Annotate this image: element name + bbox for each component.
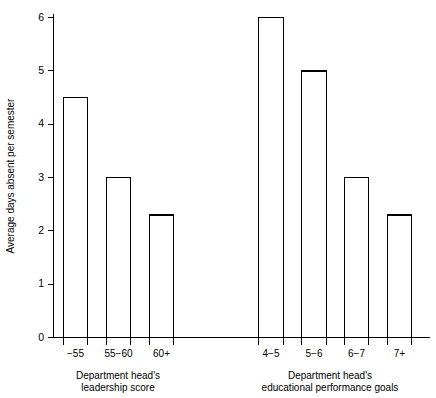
- bar-g2-7plus[interactable]: [388, 215, 412, 338]
- y-tick-label-1: 1: [38, 277, 44, 289]
- x-axis-tick-labels: −55 55−60 60+ 4−5 5−6 6−7 7+: [67, 348, 405, 359]
- x-tick-label-6-7: 6−7: [348, 348, 365, 359]
- group2-caption-line1: Department head's: [288, 370, 372, 381]
- x-tick-label-60plus: 60+: [153, 348, 170, 359]
- bar-g2-4-5[interactable]: [259, 18, 284, 338]
- y-tick-label-3: 3: [38, 171, 44, 183]
- y-axis-title: Average days absent per semester: [5, 98, 16, 254]
- y-axis-ticks: [48, 18, 54, 338]
- x-tick-label-4-5: 4−5: [263, 348, 280, 359]
- y-tick-label-2: 2: [38, 224, 44, 236]
- bar-g1-55-60[interactable]: [107, 178, 131, 338]
- x-tick-label-5-6: 5−6: [306, 348, 323, 359]
- group1-caption-line1: Department head's: [76, 370, 160, 381]
- y-tick-label-5: 5: [38, 64, 44, 76]
- chart-canvas: 6 5 4 3 2 1 0 Average days absent per se…: [0, 0, 436, 398]
- x-tick-label-55-60: 55−60: [104, 348, 133, 359]
- x-axis-ticks: [64, 338, 412, 346]
- bar-g2-5-6[interactable]: [302, 71, 327, 338]
- bar-chart: 6 5 4 3 2 1 0 Average days absent per se…: [0, 0, 436, 398]
- group-caption-performance-goals: Department head's educational performanc…: [262, 370, 399, 393]
- bar-g1-minus55[interactable]: [64, 98, 88, 338]
- x-tick-label-7plus: 7+: [394, 348, 406, 359]
- bar-g1-60plus[interactable]: [150, 215, 174, 338]
- y-tick-label-6: 6: [38, 11, 44, 23]
- group1-caption-line2: leadership score: [81, 382, 155, 393]
- bar-group-leadership-score: [64, 98, 174, 338]
- y-tick-label-4: 4: [38, 117, 44, 129]
- x-tick-label-minus55: −55: [67, 348, 84, 359]
- y-tick-label-0: 0: [38, 331, 44, 343]
- bar-group-performance-goals: [259, 18, 412, 338]
- y-axis-tick-labels: 6 5 4 3 2 1 0: [38, 11, 44, 343]
- group2-caption-line2: educational performance goals: [262, 382, 399, 393]
- bar-g2-6-7[interactable]: [345, 178, 369, 338]
- group-caption-leadership-score: Department head's leadership score: [76, 370, 160, 393]
